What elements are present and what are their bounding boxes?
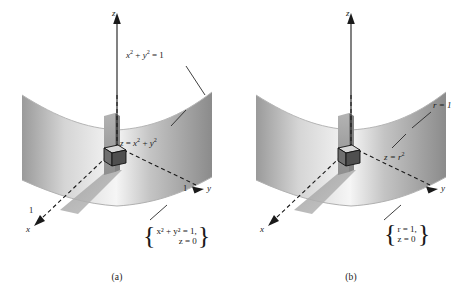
- axis-y-arrow: [192, 187, 204, 194]
- box-side-face: [112, 150, 126, 166]
- base-set-line2: z = 0: [397, 234, 416, 244]
- tick-y-one: 1: [183, 183, 187, 193]
- axis-z-label: z: [112, 8, 116, 18]
- brace-left-glyph: {: [384, 224, 396, 244]
- brace-left-glyph: {: [143, 226, 155, 246]
- leader-base-circle: [384, 205, 401, 220]
- par-eq-x-exp: 2: [137, 137, 140, 143]
- axis-x-label: x: [260, 224, 264, 234]
- base-circle-set-label: { r = 1, z = 0 }: [384, 224, 430, 244]
- brace-right-glyph: }: [418, 224, 430, 244]
- leader-cylinder-equation: [186, 66, 205, 95]
- axis-y-label: y: [441, 183, 445, 193]
- surface-left-half: [256, 95, 351, 206]
- paraboloid-equation-label: z = r2: [384, 152, 405, 162]
- base-circle-set-label: { x² + y² = 1, z = 0 }: [143, 226, 210, 246]
- panel-b-graphic: [234, 0, 468, 268]
- axis-x-label: x: [26, 224, 30, 234]
- brace-rows: x² + y² = 1, z = 0: [155, 226, 197, 246]
- cyl-eq-x-exp: 2: [130, 49, 133, 55]
- base-set-line1: x² + y² = 1,: [156, 226, 196, 236]
- panel-a-scene: z y x 1 1 x2 + y2 = 1 z = x2 + y2: [0, 0, 234, 268]
- par-eq-y-exp: 2: [154, 137, 157, 143]
- figure-root: z y x 1 1 x2 + y2 = 1 z = x2 + y2: [0, 0, 468, 303]
- par-eq-plus: +: [142, 138, 147, 148]
- cylinder-equation-label: r = 1: [433, 100, 452, 110]
- paraboloid-equation-label: z = x2 + y2: [120, 138, 157, 148]
- par-eq-equals: =: [126, 138, 131, 148]
- cyl-eq-y-exp: 2: [147, 49, 150, 55]
- caption-b: (b): [234, 272, 468, 282]
- cylinder-equation-label: x2 + y2 = 1: [126, 50, 164, 60]
- panel-a: z y x 1 1 x2 + y2 = 1 z = x2 + y2: [0, 0, 234, 303]
- par-eq-z: z: [120, 138, 124, 148]
- cyl-eq-plus: +: [135, 50, 140, 60]
- brace-right-glyph: }: [198, 226, 210, 246]
- base-set-line1: r = 1,: [397, 224, 416, 234]
- par-eq-r-exp: 2: [402, 151, 405, 157]
- panel-b-scene: z y x r = 1 z = r2 { r = 1, z = 0 }: [234, 0, 468, 268]
- box-side-face: [346, 150, 360, 166]
- surface-left-half: [22, 95, 117, 206]
- cyl-eq-equals-one: = 1: [152, 50, 164, 60]
- axis-y-arrow: [426, 187, 438, 194]
- panel-b: z y x r = 1 z = r2 { r = 1, z = 0 } (b): [234, 0, 468, 303]
- base-set-line2: z = 0: [156, 236, 196, 246]
- axis-y-label: y: [207, 183, 211, 193]
- tick-x-one: 1: [29, 205, 33, 215]
- axis-z-label: z: [346, 8, 350, 18]
- leader-base-circle: [150, 205, 167, 220]
- par-eq-zr: z = r: [384, 152, 402, 162]
- brace-rows: r = 1, z = 0: [396, 224, 417, 244]
- caption-a: (a): [0, 272, 234, 282]
